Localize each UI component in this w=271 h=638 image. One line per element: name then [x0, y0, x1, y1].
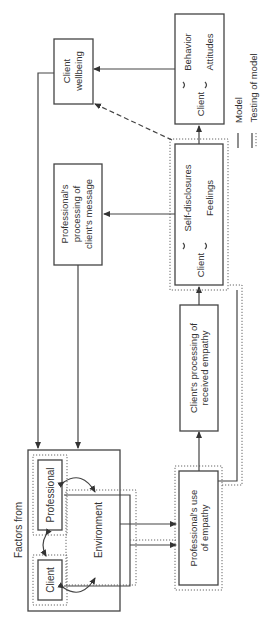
use-bypass-line	[218, 290, 237, 481]
professional-processing-line2: processing of	[71, 185, 82, 242]
wellbeing-to-factors-arrow	[38, 73, 54, 448]
use-bypass-dotted	[222, 285, 242, 485]
client-disclosure-item1: Self-disclosures	[182, 164, 193, 231]
disclosure-to-wellbeing-dashed-arrow	[95, 104, 172, 140]
factors-title: Factors from	[13, 502, 24, 558]
legend-model-label: Model	[233, 97, 244, 123]
empathy-model-diagram: Factors from Professional Client Environ…	[0, 0, 271, 638]
client-disclosure-subject: Client	[195, 252, 206, 277]
environment-label: Environment	[93, 502, 104, 558]
client-wellbeing-line1: Client	[61, 58, 72, 83]
client-wellbeing-line2: wellbeing	[73, 51, 84, 92]
professional-use-node: Professional's use of empathy	[175, 466, 222, 590]
client-processing-line1: Client's processing of	[188, 323, 199, 413]
client-outcomes-node: Client Behavior Attitudes	[175, 14, 224, 124]
professional-processing-line3: client's message	[83, 179, 94, 249]
professional-label: Professional	[45, 467, 56, 522]
client-disclosure-node: Client Self-disclosures Feelings	[170, 139, 228, 290]
professional-use-line1: Professional's use	[188, 490, 199, 567]
factors-group: Factors from Professional Client Environ…	[13, 450, 136, 611]
client-disclosure-item2: Feelings	[204, 180, 215, 216]
client-outcomes-item1: Behavior	[182, 33, 193, 71]
legend-testing-label: Testing of model	[248, 53, 259, 122]
client-processing-node: Client's processing of received empathy	[180, 305, 218, 431]
client-wellbeing-node: Client wellbeing	[54, 39, 93, 104]
client-label: Client	[45, 567, 56, 593]
professional-processing-line1: Professional's	[59, 184, 70, 243]
legend: Model Testing of model	[233, 53, 259, 148]
client-processing-line2: received empathy	[199, 330, 210, 405]
client-outcomes-item2: Attitudes	[204, 33, 215, 70]
client-outcomes-subject: Client	[195, 91, 206, 116]
professional-use-line2: of empathy	[199, 504, 210, 551]
professional-processing-node: Professional's processing of client's me…	[54, 164, 102, 265]
